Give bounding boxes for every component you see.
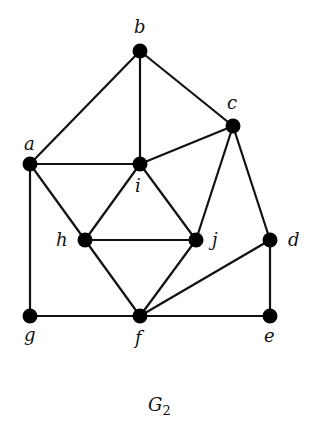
node-i [133, 157, 148, 172]
node-g [23, 309, 38, 324]
edge-c-d [233, 126, 270, 240]
edge-a-b [30, 51, 140, 164]
node-c [226, 119, 241, 134]
node-a [23, 157, 38, 172]
edge-h-f [85, 240, 140, 316]
node-label-b: b [134, 16, 146, 37]
node-label-j: j [208, 229, 218, 250]
node-labels: abcdefghij [24, 16, 300, 348]
node-h [78, 233, 93, 248]
graph-caption: G2 [148, 394, 171, 418]
node-label-d: d [288, 229, 300, 250]
edge-i-c [140, 126, 233, 164]
node-label-c: c [227, 92, 237, 113]
node-label-i: i [135, 175, 141, 196]
node-b [133, 44, 148, 59]
node-j [189, 233, 204, 248]
edge-i-h [85, 164, 140, 240]
node-d [263, 233, 278, 248]
node-f [133, 309, 148, 324]
node-label-a: a [24, 133, 35, 154]
node-label-h: h [56, 229, 68, 250]
node-e [263, 309, 278, 324]
edge-b-c [140, 51, 233, 126]
node-label-f: f [133, 327, 145, 348]
edge-i-j [140, 164, 196, 240]
edge-d-f [140, 240, 270, 316]
node-label-g: g [24, 324, 36, 345]
nodes [23, 44, 278, 324]
edge-j-f [140, 240, 196, 316]
edges [30, 51, 270, 316]
graph-diagram: abcdefghij G2 [0, 0, 315, 433]
edge-c-j [196, 126, 233, 240]
node-label-e: e [264, 325, 275, 346]
